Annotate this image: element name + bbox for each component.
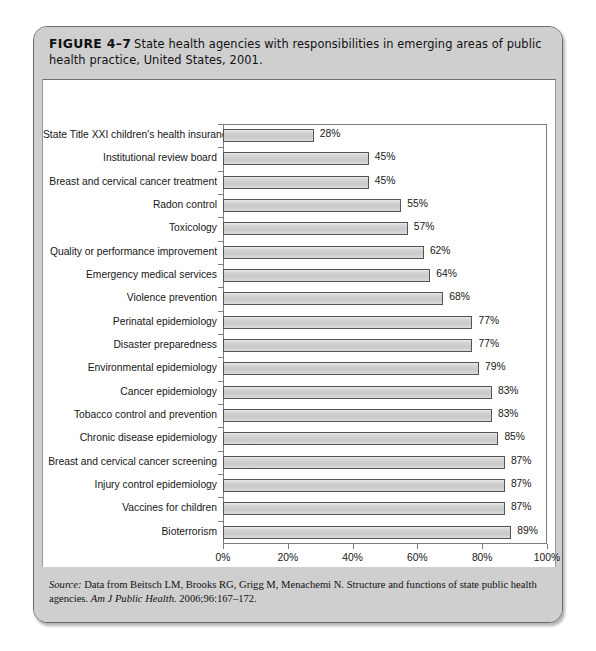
source-label: Source: (49, 579, 82, 590)
source-journal: Am J Public Health. (91, 593, 177, 604)
category-label: Breast and cervical cancer treatment (43, 176, 223, 187)
category-label: Quality or performance improvement (43, 246, 223, 257)
category-tick (218, 474, 223, 475)
bar-value-label: 45% (375, 151, 396, 162)
category-label: Bioterrorism (43, 526, 223, 537)
category-label: Cancer epidemiology (43, 386, 223, 397)
x-axis-tick (288, 544, 289, 549)
category-tick (218, 217, 223, 218)
bar (223, 199, 401, 212)
category-label: Toxicology (43, 222, 223, 233)
bar-value-label: 57% (414, 221, 435, 232)
source-citation-detail: 2006;96:167–172. (177, 593, 257, 604)
x-axis-tick (353, 544, 354, 549)
bar-value-label: 45% (375, 175, 396, 186)
category-label: Chronic disease epidemiology (43, 432, 223, 443)
chart-plot-panel: State Title XXI children's health insura… (42, 79, 556, 569)
category-label: Vaccines for children (43, 502, 223, 513)
bar (223, 246, 424, 259)
x-axis-tick-label: 60% (407, 552, 428, 563)
bar (223, 386, 492, 399)
bar (223, 502, 505, 515)
bar-value-label: 83% (498, 408, 519, 419)
figure-number: FIGURE 4–7 (49, 36, 131, 51)
x-axis-tick-label: 80% (472, 552, 493, 563)
category-tick (218, 171, 223, 172)
figure-footer: Source: Data from Beitsch LM, Brooks RG,… (34, 567, 562, 622)
figure-caption: FIGURE 4–7State health agencies with res… (49, 36, 546, 68)
category-label: Tobacco control and prevention (43, 409, 223, 420)
bar (223, 269, 430, 282)
category-tick (218, 451, 223, 452)
category-label: Perinatal epidemiology (43, 316, 223, 327)
x-axis-tick (417, 544, 418, 549)
x-axis-tick-label: 40% (342, 552, 363, 563)
category-tick (218, 311, 223, 312)
bar-value-label: 77% (478, 338, 499, 349)
bar (223, 526, 511, 539)
category-tick (218, 124, 223, 125)
bar (223, 456, 505, 469)
bar (223, 409, 492, 422)
bar-value-label: 64% (436, 268, 457, 279)
category-tick (218, 334, 223, 335)
category-label: Violence prevention (43, 292, 223, 303)
bar-value-label: 83% (498, 385, 519, 396)
bar (223, 432, 498, 445)
bar-value-label: 79% (485, 361, 506, 372)
category-tick (218, 194, 223, 195)
category-tick (218, 357, 223, 358)
category-label: Emergency medical services (43, 269, 223, 280)
category-label: Radon control (43, 199, 223, 210)
category-label: Disaster preparedness (43, 339, 223, 350)
x-axis-tick (547, 544, 548, 549)
category-tick (218, 521, 223, 522)
figure-card: FIGURE 4–7State health agencies with res… (33, 26, 563, 623)
bar-value-label: 85% (504, 431, 525, 442)
category-label: Breast and cervical cancer screening (43, 456, 223, 467)
bar (223, 316, 472, 329)
x-axis-tick-label: 0% (216, 552, 231, 563)
bar (223, 479, 505, 492)
bar-value-label: 87% (511, 501, 532, 512)
category-label: Institutional review board (43, 152, 223, 163)
bar (223, 339, 472, 352)
bar-value-label: 28% (320, 128, 341, 139)
category-tick (218, 381, 223, 382)
bar-value-label: 62% (430, 245, 451, 256)
category-tick (218, 497, 223, 498)
bar-value-label: 87% (511, 455, 532, 466)
bar-value-label: 89% (517, 525, 538, 536)
bar-value-label: 77% (478, 315, 499, 326)
bar-value-label: 55% (407, 198, 428, 209)
category-tick (218, 427, 223, 428)
bar (223, 362, 479, 375)
x-axis-tick-label: 100% (534, 552, 560, 563)
bar (223, 292, 443, 305)
category-label: Environmental epidemiology (43, 362, 223, 373)
x-axis-tick (223, 544, 224, 549)
category-tick (218, 287, 223, 288)
category-tick (218, 147, 223, 148)
x-axis-tick-label: 20% (277, 552, 298, 563)
bar (223, 222, 408, 235)
bar-value-label: 87% (511, 478, 532, 489)
bar (223, 176, 369, 189)
source-citation: Source: Data from Beitsch LM, Brooks RG,… (49, 578, 544, 606)
category-tick (218, 264, 223, 265)
category-label: State Title XXI children's health insura… (43, 129, 223, 140)
bar-value-label: 68% (449, 291, 470, 302)
bar (223, 129, 314, 142)
category-tick (218, 404, 223, 405)
x-axis-tick (482, 544, 483, 549)
figure-header: FIGURE 4–7State health agencies with res… (34, 27, 562, 79)
category-tick (218, 241, 223, 242)
bar (223, 152, 369, 165)
category-label: Injury control epidemiology (43, 479, 223, 490)
